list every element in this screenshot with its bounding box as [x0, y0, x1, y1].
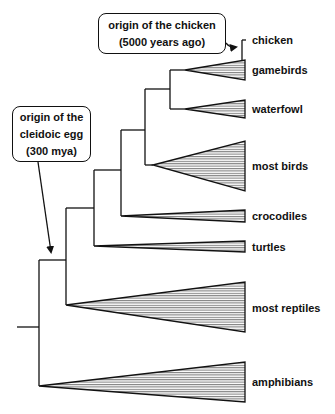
callout-egg-line-2: cleidoic egg: [13, 126, 90, 143]
taxon-label-most-reptiles: most reptiles: [252, 302, 320, 314]
taxon-label-gamebirds: gamebirds: [252, 64, 308, 76]
clade-waterfowl: [185, 100, 245, 118]
callout-chicken-line-2: (5000 years ago): [99, 34, 225, 51]
taxon-label-amphibians: amphibians: [252, 376, 313, 388]
taxon-label-waterfowl: waterfowl: [251, 103, 303, 115]
callout-egg-line-3: (300 mya): [13, 143, 90, 160]
taxon-label-most-birds: most birds: [252, 160, 308, 172]
callout-origin-of-cleidoic-egg: origin of the cleidoic egg (300 mya): [12, 106, 91, 162]
clade-crocodiles: [121, 210, 245, 222]
clade-gamebirds: [185, 60, 245, 80]
clade-most-birds: [153, 141, 245, 191]
phylogenetic-tree: chicken gamebirds waterfowl most birds c…: [0, 0, 335, 414]
taxon-label-turtles: turtles: [252, 241, 286, 253]
callout-origin-of-chicken: origin of the chicken (5000 years ago): [98, 13, 226, 54]
taxon-label-chicken: chicken: [252, 34, 293, 46]
taxon-label-crocodiles: crocodiles: [252, 210, 307, 222]
chicken-arrow: [226, 43, 236, 47]
egg-arrow: [38, 162, 51, 252]
callout-chicken-line-1: origin of the chicken: [99, 17, 225, 34]
clade-turtles: [94, 241, 245, 252]
clade-most-reptiles: [66, 282, 245, 332]
callout-egg-line-1: origin of the: [13, 109, 90, 126]
clade-amphibians: [39, 362, 245, 402]
